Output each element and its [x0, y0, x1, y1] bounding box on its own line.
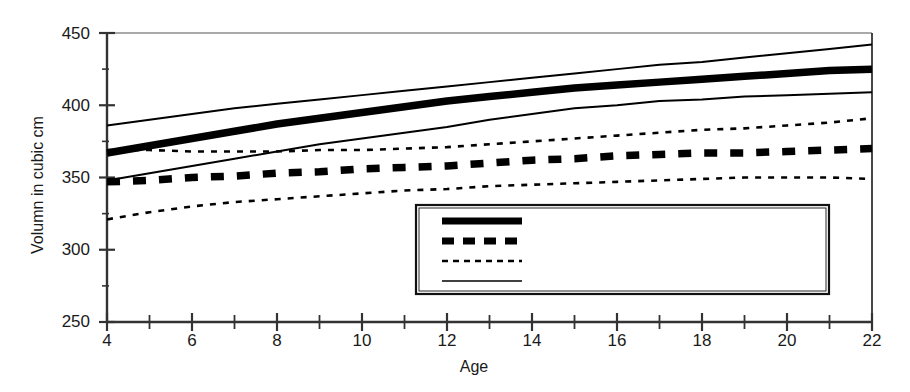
- series-layer: [107, 45, 872, 220]
- legend-box: [416, 205, 829, 294]
- growth-chart-figure: Volumn in cubic cm Age 450 400 350 300 2…: [0, 0, 910, 392]
- series-line-4: [107, 45, 872, 126]
- plot-canvas: [0, 0, 910, 392]
